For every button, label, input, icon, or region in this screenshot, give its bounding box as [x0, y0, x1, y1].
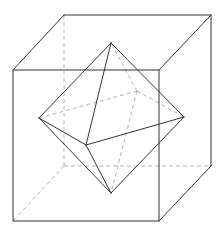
cube-octahedron-diagram [0, 0, 223, 228]
cube-edge-top-left-depth [13, 15, 64, 70]
octa-edge-front-bottom [86, 145, 111, 193]
octa-edge-right-bottom [111, 117, 184, 193]
octa-edge-left-front [39, 118, 86, 145]
cube-hidden-edge-bottom-left-depth [13, 166, 64, 221]
octa-edge-top-front [86, 43, 111, 145]
octahedron-visible-edges [39, 43, 184, 193]
octa-hidden-edge-back-right [137, 91, 184, 117]
octa-edge-top-right [111, 43, 184, 117]
octahedron-hidden-edges [39, 43, 184, 193]
octa-hidden-edge-back-top [111, 43, 137, 91]
octa-edge-front-right [86, 117, 184, 145]
octa-hidden-edge-back-bottom [111, 91, 137, 193]
octa-edge-top-left [39, 43, 111, 118]
octa-hidden-edge-left-back [39, 91, 137, 118]
cube-edge-top-right-depth [159, 15, 211, 70]
cube-edge-bottom-right-depth [159, 166, 211, 221]
